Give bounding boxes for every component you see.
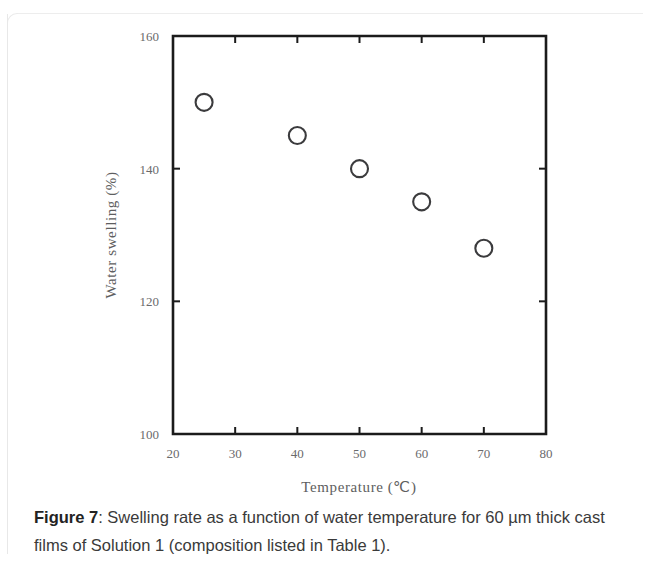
y-tick-label: 120: [140, 294, 160, 309]
figure-caption-text: Swelling rate as a function of water tem…: [34, 508, 605, 554]
chart-figure: 20304050607080 100120140160 Temperature …: [0, 0, 649, 500]
figure-caption-separator: :: [98, 508, 107, 526]
y-tick-label: 160: [140, 29, 160, 44]
figure-page: 20304050607080 100120140160 Temperature …: [0, 0, 649, 563]
x-axis-tick-labels: 20304050607080: [167, 446, 553, 461]
x-axis-ticks: [173, 36, 546, 434]
x-tick-label: 50: [353, 446, 366, 461]
figure-caption-label: Figure 7: [34, 508, 98, 526]
y-axis-title: Water swelling (%): [103, 171, 120, 298]
x-tick-label: 30: [229, 446, 242, 461]
data-point-marker: [289, 127, 306, 144]
x-axis-title: Temperature (℃): [301, 479, 416, 496]
x-tick-label: 60: [415, 446, 428, 461]
data-points: [196, 94, 493, 257]
y-tick-label: 100: [140, 427, 160, 442]
plot-frame: [173, 36, 546, 434]
data-point-marker: [351, 160, 368, 177]
x-tick-label: 80: [540, 446, 553, 461]
y-axis-tick-labels: 100120140160: [140, 29, 160, 442]
x-tick-label: 40: [291, 446, 304, 461]
figure-caption: Figure 7: Swelling rate as a function of…: [34, 503, 624, 559]
scatter-chart: 20304050607080 100120140160 Temperature …: [0, 0, 649, 500]
data-point-marker: [196, 94, 213, 111]
y-axis-ticks: [173, 169, 546, 302]
x-tick-label: 20: [167, 446, 180, 461]
x-tick-label: 70: [477, 446, 490, 461]
y-tick-label: 140: [140, 162, 160, 177]
data-point-marker: [413, 193, 430, 210]
data-point-marker: [475, 240, 492, 257]
